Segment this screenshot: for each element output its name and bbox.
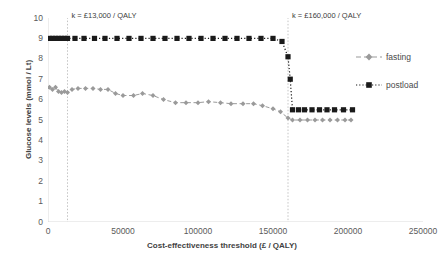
data-point (162, 36, 167, 41)
y-tick-label: 4 (21, 136, 43, 145)
data-point (350, 107, 355, 112)
data-point (92, 36, 97, 41)
y-tick-label: 9 (21, 34, 43, 43)
data-point (324, 107, 329, 112)
data-point (313, 118, 318, 123)
data-point (222, 36, 227, 41)
data-point (150, 36, 155, 41)
data-point (290, 118, 295, 123)
data-point (271, 106, 276, 111)
data-point (296, 107, 301, 112)
data-point (251, 101, 256, 106)
data-point (70, 87, 75, 92)
data-point (320, 118, 325, 123)
threshold-annotation: k = £13,000 / QALY (72, 11, 137, 20)
data-point (218, 100, 223, 105)
x-tick-label: 50000 (111, 227, 135, 236)
data-point (349, 118, 354, 123)
data-point (114, 36, 119, 41)
series-line (50, 87, 352, 120)
data-point (174, 36, 179, 41)
data-point (198, 36, 203, 41)
data-point (260, 103, 265, 108)
data-point (302, 107, 307, 112)
y-tick-label: 0 (21, 218, 43, 227)
data-point (298, 118, 303, 123)
data-point (335, 118, 340, 123)
data-point (258, 36, 263, 41)
data-point (270, 36, 275, 41)
y-tick-label: 3 (21, 156, 43, 165)
data-point (138, 36, 143, 41)
data-point (184, 100, 189, 105)
x-tick-label: 0 (46, 227, 51, 236)
y-tick-label: 6 (21, 95, 43, 104)
y-tick-label: 5 (21, 116, 43, 125)
data-point (343, 118, 348, 123)
data-point (81, 36, 86, 41)
data-point (210, 36, 215, 41)
data-point (151, 93, 156, 98)
x-tick-label: 150000 (259, 227, 287, 236)
data-point (305, 118, 310, 123)
x-tick-label: 250000 (409, 227, 437, 236)
data-point (332, 107, 337, 112)
x-tick-label: 200000 (334, 227, 362, 236)
data-point (317, 107, 322, 112)
data-point (121, 93, 126, 98)
y-tick-label: 1 (21, 197, 43, 206)
series-line (50, 38, 353, 109)
y-tick-label: 8 (21, 54, 43, 63)
data-point (290, 107, 295, 112)
data-point (98, 87, 103, 92)
series-postload (48, 36, 355, 113)
data-point (131, 93, 136, 98)
data-point (285, 54, 290, 59)
data-point (328, 118, 333, 123)
legend-label-fasting: fasting (386, 52, 411, 62)
data-point (106, 87, 111, 92)
series-fasting (48, 85, 354, 123)
data-point (173, 100, 178, 105)
data-point (279, 39, 284, 44)
chart-legend: fasting postload (356, 48, 444, 104)
data-point (91, 86, 96, 91)
fasting-series-key-icon (356, 51, 382, 63)
data-point (341, 107, 346, 112)
data-point (278, 109, 283, 114)
y-tick-label: 7 (21, 75, 43, 84)
y-tick-label: 2 (21, 177, 43, 186)
legend-item-fasting: fasting (356, 48, 444, 66)
data-point (65, 36, 70, 41)
data-point (83, 86, 88, 91)
y-tick-label: 10 (21, 14, 43, 23)
threshold-annotation: k = £160,000 / QALY (292, 11, 361, 20)
data-point (161, 97, 166, 102)
data-point (113, 91, 118, 96)
legend-label-postload: postload (386, 80, 418, 90)
data-point (126, 36, 131, 41)
data-point (76, 86, 81, 91)
data-point (140, 91, 145, 96)
data-point (241, 101, 246, 106)
data-point (72, 36, 77, 41)
data-point (186, 36, 191, 41)
data-point (234, 36, 239, 41)
legend-item-postload: postload (356, 76, 444, 94)
data-point (246, 36, 251, 41)
data-point (229, 101, 234, 106)
x-tick-label: 100000 (184, 227, 212, 236)
data-point (196, 100, 201, 105)
data-point (102, 36, 107, 41)
data-point (288, 77, 293, 82)
data-point (206, 99, 211, 104)
postload-series-key-icon (356, 79, 382, 91)
chart-container: Glucose levels (mmol / Lt) Cost-effectiv… (0, 0, 444, 263)
x-axis-title: Cost-effectiveness threshold (£ / QALY) (0, 241, 444, 250)
data-point (309, 107, 314, 112)
